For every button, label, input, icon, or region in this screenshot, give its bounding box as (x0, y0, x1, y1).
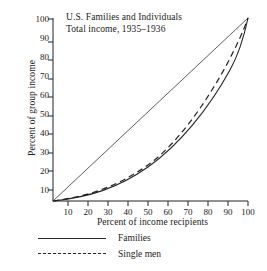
legend-item-families: Families (38, 231, 258, 247)
legend-swatch-solid-line-icon (38, 238, 106, 239)
equality-line (53, 18, 248, 201)
legend-label-families: Families (118, 231, 151, 246)
y-tick-marks (48, 19, 53, 190)
x-tick-marks (68, 201, 248, 206)
legend-label-single-men: Single men (118, 247, 161, 262)
chart-legend: Families Single men (38, 231, 258, 263)
legend-item-single-men: Single men (38, 247, 258, 263)
lorenz-curve-chart: Percent of group income Percent of incom… (0, 0, 267, 271)
legend-swatch-dashed-line-icon (38, 253, 106, 255)
